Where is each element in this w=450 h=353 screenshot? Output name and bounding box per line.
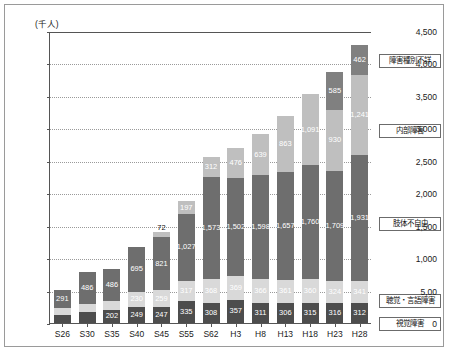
bar-column[interactable]: 124100291S26	[54, 290, 71, 323]
bar-value-label: 1,027	[177, 244, 196, 252]
bar-value-label: 1,502	[226, 223, 245, 231]
y-axis-tick-label: 2,000	[416, 189, 437, 199]
bar-segment: 197	[178, 201, 195, 214]
bar-value-label: 335	[180, 308, 193, 316]
y-axis-tick	[47, 129, 50, 130]
bar-segment: 259	[153, 290, 170, 307]
y-axis-tick	[47, 32, 50, 33]
bar-column[interactable]: 168130486S30	[79, 272, 96, 323]
bar-value-label: 821	[155, 260, 168, 268]
bar-segment: 360	[302, 279, 319, 302]
bar-value-label: 317	[180, 287, 193, 295]
bar-column[interactable]: 3083681,573312S62	[203, 157, 220, 323]
bar-segment: 1,657	[277, 172, 294, 280]
bar-value-label: 585	[329, 88, 342, 96]
y-axis-tick-label: 1,000	[416, 254, 437, 264]
y-axis-tick	[47, 162, 50, 163]
bar-segment: 1,241	[351, 75, 368, 156]
y-axis-tick-label: 3,000	[416, 124, 437, 134]
bar-segment: 308	[203, 303, 220, 323]
gridline	[50, 64, 371, 65]
bar-segment: 368	[203, 279, 220, 303]
x-axis-tick	[186, 323, 187, 327]
y-axis	[5, 32, 46, 324]
bar-segment: 317	[178, 281, 195, 302]
bar-column[interactable]: 3153601,7601,091H18	[302, 94, 319, 323]
bar-value-label: 249	[130, 311, 143, 319]
bar-segment: 863	[277, 116, 294, 172]
bar-value-label: 366	[254, 287, 267, 295]
y-axis-tick	[47, 64, 50, 65]
bar-segment: 585	[326, 72, 343, 110]
bar-value-label: 695	[130, 266, 143, 274]
bar-column[interactable]: 3353171,027197S55	[178, 201, 195, 323]
x-axis-tick	[261, 323, 262, 327]
bar-value-label: 369	[230, 284, 243, 292]
bar-segment: 124	[54, 315, 71, 323]
x-axis-tick-label: H28	[340, 329, 380, 339]
bar-value-label: 197	[180, 204, 193, 212]
x-axis-tick	[335, 323, 336, 327]
bar-value-label: 462	[353, 56, 366, 64]
bar-segment: 247	[153, 307, 170, 323]
bar-column[interactable]: 3163241,709930585H23	[326, 72, 343, 323]
bar-segment: 821	[153, 237, 170, 290]
bar-value-label: 361	[279, 288, 292, 296]
chart-legend: 障害種別不詳内部障害肢体不自由聴覚・言語障害視覚障害	[379, 32, 443, 324]
bar-value-label: 259	[155, 295, 168, 303]
y-axis-tick	[47, 97, 50, 98]
bar-column[interactable]: 3123411,9311,241462H28	[351, 45, 368, 323]
bar-segment: 312	[351, 303, 368, 323]
bar-value-label: 1,091	[301, 126, 320, 134]
bar-column[interactable]: 249230695S40	[128, 247, 145, 323]
bar-value-label: 1,598	[251, 224, 270, 232]
y-axis-tick	[47, 324, 50, 325]
bar-value-label: 1,573	[202, 224, 221, 232]
bar-segment: 311	[252, 303, 269, 323]
bar-segment: 695	[128, 247, 145, 292]
bar-value-label: 306	[279, 309, 292, 317]
bar-segment: 168	[79, 312, 96, 323]
bar-value-label: 308	[205, 309, 218, 317]
bar-segment: 1,598	[252, 175, 269, 279]
y-axis-tick-label: 2,500	[416, 157, 437, 167]
bar-segment: 141	[103, 301, 120, 310]
bar-segment: 315	[302, 303, 319, 323]
bar-segment: 1,091	[302, 94, 319, 165]
bar-segment: 639	[252, 134, 269, 175]
bar-value-label: 1,760	[301, 218, 320, 226]
plot-area: 124100291S26168130486S30202141486S352492…	[49, 32, 371, 324]
y-axis-tick	[47, 194, 50, 195]
bar-value-label: 357	[230, 308, 243, 316]
bar-value-label: 639	[254, 151, 267, 159]
bar-segment: 476	[227, 148, 244, 179]
bar-value-label: 486	[106, 281, 119, 289]
bar-segment: 306	[277, 303, 294, 323]
bar-value-label: 486	[81, 284, 94, 292]
bar-segment: 202	[103, 310, 120, 323]
bar-segment: 1,760	[302, 165, 319, 279]
x-axis-tick	[62, 323, 63, 327]
y-axis-tick-label: 5,00	[420, 287, 437, 297]
bar-column[interactable]: 3063611,657863H13	[277, 116, 294, 323]
bar-value-label: 230	[130, 296, 143, 304]
bar-value-label: 1,241	[350, 111, 369, 119]
bar-column[interactable]: 3573691,502476H3	[227, 148, 244, 323]
bar-segment: 486	[79, 272, 96, 304]
bar-value-label: 476	[230, 159, 243, 167]
bar-segment: 1,573	[203, 177, 220, 279]
y-axis-tick-label: 0	[432, 319, 437, 329]
bar-column[interactable]: 3113661,598639H8	[252, 134, 269, 323]
bar-segment: 100	[54, 308, 71, 314]
bar-segment: 366	[252, 279, 269, 303]
bar-column[interactable]: 24725982172S45	[153, 232, 170, 323]
x-axis-tick	[87, 323, 88, 327]
bar-value-label: 72	[157, 224, 165, 232]
bar-value-label: 311	[255, 309, 267, 317]
bar-segment: 341	[351, 281, 368, 303]
bar-column[interactable]: 202141486S35	[103, 269, 120, 323]
bar-segment: 291	[54, 290, 71, 309]
bar-segment: 335	[178, 301, 195, 323]
x-axis-tick	[360, 323, 361, 327]
bar-value-label: 1,931	[350, 214, 369, 222]
